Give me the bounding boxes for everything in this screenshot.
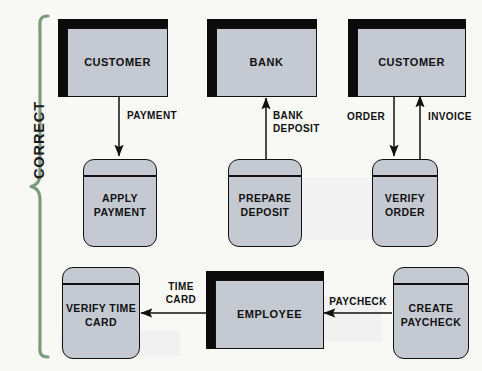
entity-label: EMPLOYEE — [237, 308, 302, 321]
process-label: CREATE PAYCHECK — [394, 283, 468, 358]
entity-face: CUSTOMER — [67, 28, 168, 97]
flow-label-time-card: TIME CARD — [152, 281, 210, 306]
process-verify-time-card[interactable]: VERIFY TIME CARD — [62, 267, 140, 359]
process-create-paycheck[interactable]: CREATE PAYCHECK — [393, 267, 469, 359]
flow-label-paycheck: PAYCHECK — [327, 296, 389, 309]
entity-customer-payment[interactable]: CUSTOMER — [58, 19, 168, 97]
entity-face: BANK — [216, 28, 317, 97]
entity-employee[interactable]: EMPLOYEE — [206, 271, 324, 349]
process-label: VERIFY TIME CARD — [63, 283, 139, 358]
entity-bank[interactable]: BANK — [207, 19, 317, 97]
process-label: PREPARE DEPOSIT — [229, 175, 301, 246]
process-prepare-deposit[interactable]: PREPARE DEPOSIT — [228, 159, 302, 247]
flow-label-order: ORDER — [347, 111, 385, 124]
flow-label-payment: PAYMENT — [127, 110, 177, 123]
entity-label: CUSTOMER — [84, 56, 151, 69]
flow-label-invoice: INVOICE — [428, 111, 472, 124]
process-label: APPLY PAYMENT — [84, 175, 156, 246]
entity-customer-order[interactable]: CUSTOMER — [348, 19, 466, 97]
entity-face: CUSTOMER — [357, 28, 466, 97]
process-label: VERIFY ORDER — [373, 175, 437, 246]
entity-face: EMPLOYEE — [215, 280, 324, 349]
process-apply-payment[interactable]: APPLY PAYMENT — [83, 159, 157, 247]
dataflow-diagram-canvas: CORRECT CUSTOMER BANK — [0, 0, 482, 371]
entity-label: CUSTOMER — [378, 56, 445, 69]
process-verify-order[interactable]: VERIFY ORDER — [372, 159, 438, 247]
entity-label: BANK — [250, 56, 284, 69]
flow-label-bank-deposit: BANK DEPOSIT — [273, 110, 320, 135]
